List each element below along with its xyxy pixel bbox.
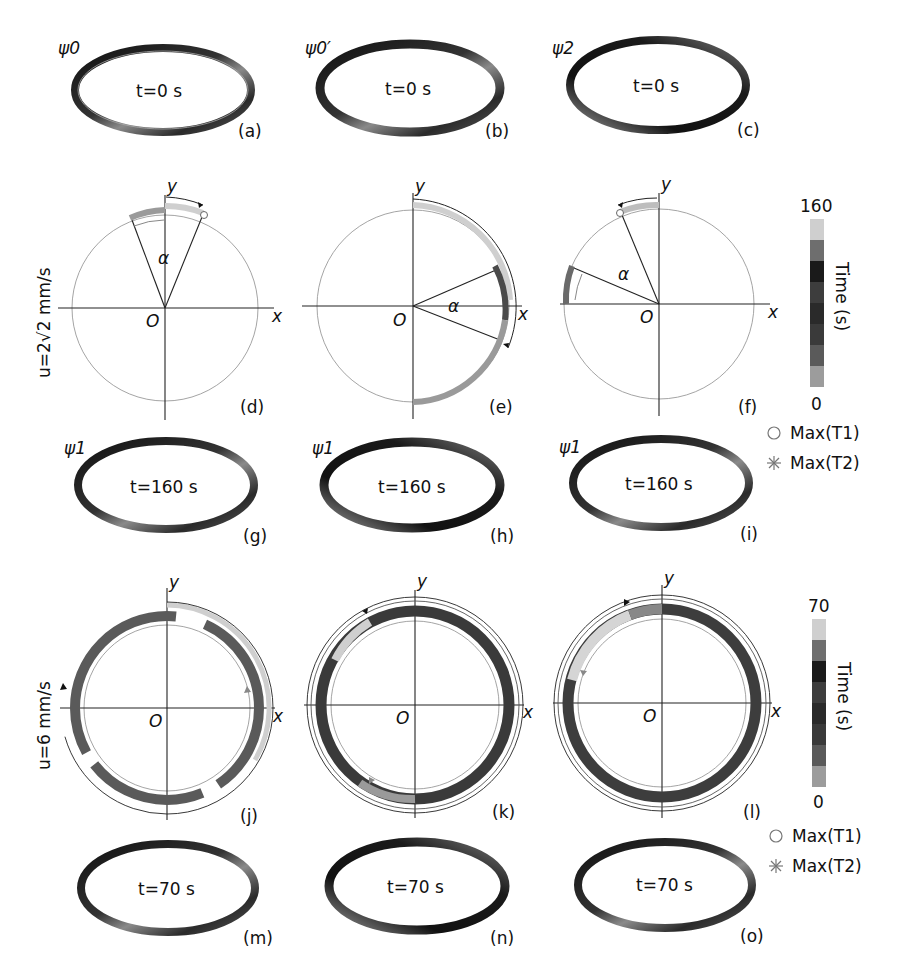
- colorbar-title: Time (s): [832, 261, 852, 331]
- origin-label: O: [643, 706, 656, 726]
- ring-panel-b: ψ0′ t=0 s (b): [305, 38, 509, 141]
- ring-panel-m: t=70 s (m): [81, 844, 273, 948]
- ring-panel-g: ψ1 t=160 s (g): [64, 438, 267, 546]
- legend-t1: Max(T1): [792, 826, 862, 846]
- y-axis-label: y: [166, 176, 178, 196]
- x-axis-label: x: [271, 306, 283, 326]
- state-label: ψ0′: [305, 38, 331, 58]
- colorbar-min: 0: [811, 394, 822, 414]
- ring-panel-n: t=70 s (n): [329, 842, 514, 948]
- colorbar-max: 70: [808, 596, 830, 616]
- time-label: t=70 s: [138, 879, 195, 899]
- legend-t2: Max(T2): [792, 856, 862, 876]
- ring-panel-c: ψ2 t=0 s (c): [552, 38, 760, 140]
- circle-marker-icon: [768, 427, 780, 439]
- panel-label: (g): [243, 526, 267, 546]
- polar-panel-j: O x y (j): [60, 572, 284, 826]
- row-speed-label-2: u=6 mm/s: [34, 681, 54, 770]
- origin-label: O: [149, 711, 162, 731]
- panel-label: (k): [492, 802, 515, 822]
- state-label: ψ2: [552, 38, 574, 58]
- panel-label: (h): [490, 526, 514, 546]
- panel-label: (j): [240, 806, 258, 826]
- y-axis-label: y: [416, 571, 428, 591]
- asterisk-marker-icon: [769, 859, 783, 873]
- alpha-label: α: [158, 248, 169, 268]
- polar-panel-d: α O x y (d): [58, 176, 283, 420]
- y-axis-label: y: [414, 176, 426, 196]
- x-axis-label: x: [517, 304, 529, 324]
- ring-panel-o: t=70 s (o): [578, 842, 764, 946]
- colorbar-title: Time (s): [834, 661, 854, 731]
- colorbar-min: 0: [813, 792, 824, 812]
- x-axis-label: x: [272, 706, 284, 726]
- asterisk-marker-icon: [767, 456, 781, 470]
- time-label: t=0 s: [136, 81, 182, 101]
- y-axis-label: y: [663, 568, 675, 588]
- panel-label: (a): [238, 121, 262, 141]
- colorbar-max: 160: [800, 196, 832, 216]
- legend-t1: Max(T1): [790, 423, 860, 443]
- state-label: ψ1: [559, 437, 581, 457]
- panel-label: (e): [489, 397, 513, 417]
- legend-1: Max(T1) Max(T2): [767, 423, 860, 473]
- alpha-label: α: [448, 296, 459, 316]
- panel-label: (m): [243, 928, 273, 948]
- origin-label: O: [396, 708, 409, 728]
- polar-panel-k: O x y (k): [304, 571, 534, 822]
- polar-panel-l: O x y (l): [553, 568, 782, 822]
- time-label: t=160 s: [378, 477, 446, 497]
- polar-panel-e: α O x y (e): [302, 176, 529, 419]
- time-label: t=0 s: [385, 79, 431, 99]
- origin-label: O: [146, 311, 159, 331]
- panel-label: (n): [490, 928, 514, 948]
- panel-label: (c): [737, 120, 760, 140]
- circle-marker-icon: [770, 830, 782, 842]
- y-axis-label: y: [168, 572, 180, 592]
- time-label: t=160 s: [130, 477, 198, 497]
- legend-2: Max(T1) Max(T2): [769, 826, 862, 876]
- time-label: t=160 s: [625, 474, 693, 494]
- figure-canvas: ψ0 t=0 s (a) ψ0′ t=0 s (b) ψ2 t=0 s (c) …: [0, 0, 901, 970]
- panel-label: (i): [740, 524, 758, 544]
- state-label: ψ1: [312, 438, 334, 458]
- row-speed-label-1: u=2√2 mm/s: [34, 267, 54, 378]
- polar-panel-f: α O x y (f): [560, 174, 779, 417]
- time-label: t=70 s: [636, 875, 693, 895]
- panel-label: (d): [240, 397, 264, 417]
- panel-label: (b): [485, 121, 509, 141]
- state-label: ψ1: [64, 438, 86, 458]
- origin-label: O: [640, 307, 653, 327]
- x-axis-label: x: [770, 701, 782, 721]
- panel-label: (f): [738, 397, 757, 417]
- panel-label: (o): [740, 926, 764, 946]
- state-label: ψ0: [58, 38, 80, 58]
- ring-panel-a: ψ0 t=0 s (a): [58, 38, 262, 141]
- legend-t2: Max(T2): [790, 453, 860, 473]
- x-axis-label: x: [767, 302, 779, 322]
- x-axis-label: x: [522, 702, 534, 722]
- colorbar-time-160: 160 0 Time (s): [800, 196, 852, 414]
- time-label: t=70 s: [387, 877, 444, 897]
- ring-panel-h: ψ1 t=160 s (h): [312, 438, 514, 546]
- y-axis-label: y: [660, 174, 672, 194]
- panel-label: (l): [743, 802, 761, 822]
- time-label: t=0 s: [633, 76, 679, 96]
- colorbar-time-70: 70 0 Time (s): [808, 596, 854, 812]
- ring-panel-i: ψ1 t=160 s (i): [559, 437, 758, 544]
- alpha-label: α: [618, 264, 629, 284]
- origin-label: O: [393, 310, 406, 330]
